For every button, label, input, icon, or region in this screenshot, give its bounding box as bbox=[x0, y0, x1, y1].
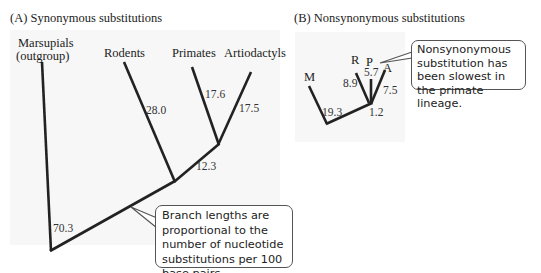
panel-b-title: (B) Nonsynonymous substitutions bbox=[294, 11, 465, 26]
panel-a-title: (A) Synonymous substitutions bbox=[10, 11, 162, 26]
branch-length-internal-b: 1.2 bbox=[369, 106, 383, 118]
taxon-m: M bbox=[304, 71, 315, 84]
branch-length-artiodactyls: 17.5 bbox=[239, 102, 259, 114]
branch-length-r: 8.9 bbox=[343, 77, 357, 89]
branch-length-marsupials: 70.3 bbox=[53, 222, 73, 234]
callout-primate-slowest: Nonsynonymous substitution has been slow… bbox=[411, 40, 526, 90]
branch-length-internal: 12.3 bbox=[196, 160, 216, 172]
branch-length-m: 19.3 bbox=[322, 106, 342, 118]
taxon-primates: Primates bbox=[172, 47, 216, 60]
branch-length-a: 7.5 bbox=[383, 84, 397, 96]
branch-length-rodents: 28.0 bbox=[146, 104, 166, 116]
taxon-a: A bbox=[383, 62, 392, 75]
taxon-rodents: Rodents bbox=[104, 47, 145, 60]
taxon-artiodactyls: Artiodactyls bbox=[224, 47, 286, 60]
branch-length-primates: 17.6 bbox=[205, 88, 225, 100]
branch-length-p: 5.7 bbox=[364, 66, 378, 78]
callout-branch-lengths: Branch lengths are proportional to the n… bbox=[155, 205, 293, 268]
taxon-r: R bbox=[351, 54, 359, 67]
taxon-marsupials-outgroup: (outgroup) bbox=[16, 50, 69, 63]
